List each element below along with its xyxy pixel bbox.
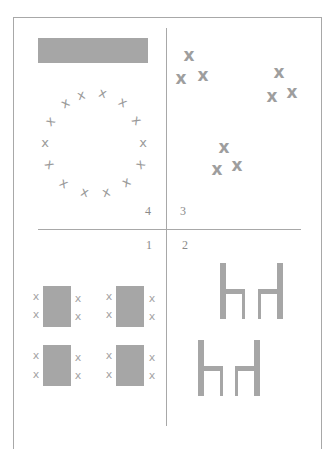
x-mark: x bbox=[33, 291, 40, 302]
x-mark: x bbox=[184, 47, 195, 64]
x-mark: x bbox=[219, 139, 230, 156]
panel-label-3: 3 bbox=[180, 205, 186, 217]
x-mark: x bbox=[80, 185, 91, 200]
x-mark: x bbox=[98, 86, 109, 101]
x-mark: x bbox=[43, 157, 58, 172]
x-mark: x bbox=[198, 67, 209, 84]
x-mark: x bbox=[116, 94, 129, 109]
x-mark: x bbox=[133, 157, 148, 172]
x-mark: x bbox=[149, 370, 156, 381]
x-mark: x bbox=[33, 369, 40, 380]
panel-label-4: 4 bbox=[145, 205, 151, 217]
x-mark: x bbox=[76, 88, 87, 103]
x-mark: x bbox=[119, 174, 132, 189]
x-mark: x bbox=[57, 175, 70, 190]
panel-label-1: 1 bbox=[146, 239, 152, 251]
horizontal-divider bbox=[38, 229, 301, 230]
x-mark: x bbox=[58, 95, 71, 110]
x-mark: x bbox=[106, 309, 113, 320]
table-rect bbox=[116, 345, 144, 386]
chair-back bbox=[254, 340, 260, 396]
frame-left bbox=[13, 17, 14, 449]
banner-bar bbox=[38, 38, 148, 63]
x-mark: x bbox=[176, 70, 187, 87]
vertical-divider bbox=[166, 28, 167, 426]
x-mark: x bbox=[106, 291, 113, 302]
chair-back bbox=[277, 263, 283, 319]
x-mark: x bbox=[149, 352, 156, 363]
x-mark: x bbox=[33, 350, 40, 361]
x-mark: x bbox=[75, 370, 82, 381]
x-mark: x bbox=[149, 311, 156, 322]
x-mark: x bbox=[75, 311, 82, 322]
x-mark: x bbox=[106, 350, 113, 361]
chair-leg bbox=[220, 366, 223, 396]
x-mark: x bbox=[101, 185, 112, 200]
frame-right bbox=[321, 17, 322, 449]
x-mark: x bbox=[41, 136, 49, 149]
x-mark: x bbox=[274, 64, 285, 81]
table-rect bbox=[43, 345, 71, 386]
panel-label-2: 2 bbox=[182, 239, 188, 251]
chair-leg bbox=[235, 366, 238, 396]
x-mark: x bbox=[232, 157, 243, 174]
x-mark: x bbox=[43, 114, 58, 129]
x-mark: x bbox=[267, 88, 278, 105]
table-rect bbox=[116, 286, 144, 327]
x-mark: x bbox=[130, 113, 145, 128]
x-mark: x bbox=[149, 293, 156, 304]
x-mark: x bbox=[139, 136, 147, 149]
x-mark: x bbox=[75, 352, 82, 363]
x-mark: x bbox=[212, 161, 223, 178]
x-mark: x bbox=[106, 369, 113, 380]
chair-leg bbox=[242, 289, 245, 319]
x-mark: x bbox=[287, 84, 298, 101]
x-mark: x bbox=[33, 309, 40, 320]
x-mark: x bbox=[75, 293, 82, 304]
chair-leg bbox=[258, 289, 261, 319]
table-rect bbox=[43, 286, 71, 327]
frame-top bbox=[13, 17, 322, 18]
